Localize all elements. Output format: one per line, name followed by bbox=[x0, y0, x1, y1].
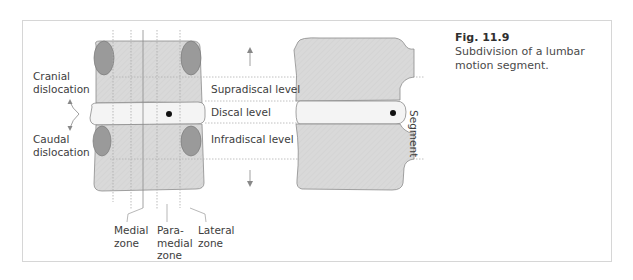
dislocation-arrows-icon bbox=[70, 102, 79, 128]
paramedial-zone-label: Para- medial zone bbox=[157, 224, 193, 262]
nucleus-dot bbox=[166, 111, 172, 117]
left-disc bbox=[90, 102, 205, 125]
facet-upper-left bbox=[94, 41, 114, 75]
discal-level-label: Discal level bbox=[211, 106, 271, 119]
caudal-dislocation-label: Caudal dislocation bbox=[33, 133, 90, 158]
figure-caption-text: Subdivision of a lumbar motion segment. bbox=[455, 45, 585, 73]
segment-label: Segment bbox=[408, 110, 420, 157]
figure-number: Fig. 11.9 bbox=[455, 31, 509, 44]
facet-lower-left bbox=[93, 126, 111, 156]
infradiscal-level-label: Infradiscal level bbox=[211, 133, 294, 146]
up-arrow-icon bbox=[247, 47, 253, 66]
nucleus-dot-lateral bbox=[390, 110, 396, 116]
down-arrow-icon bbox=[247, 170, 253, 187]
figure-caption: Fig. 11.9 Subdivision of a lumbar motion… bbox=[455, 31, 633, 73]
right-lateral-segment bbox=[294, 38, 414, 190]
supradiscal-level-label: Supradiscal level bbox=[211, 83, 300, 96]
cranial-dislocation-label: Cranial dislocation bbox=[33, 70, 90, 95]
lateral-zone-label: Lateral zone bbox=[198, 224, 235, 249]
facet-lower-right bbox=[181, 126, 201, 156]
medial-zone-label: Medial zone bbox=[114, 224, 148, 249]
facet-upper-right bbox=[181, 41, 201, 75]
zone-pointers bbox=[127, 204, 206, 222]
